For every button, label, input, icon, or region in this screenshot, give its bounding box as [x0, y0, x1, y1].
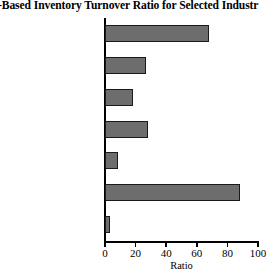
bar-row: Motion pictures	[105, 50, 258, 82]
bar-chart: es-Based Inventory Turnover Ratio for Se…	[0, 0, 273, 272]
bar	[105, 184, 240, 201]
bar-row: Eating & drinking	[105, 18, 258, 50]
x-axis-title: Ratio	[105, 260, 258, 272]
plot-area: Eating & drinkingMotion picturesFood sto…	[105, 18, 258, 241]
bar-row: Food stores	[105, 82, 258, 114]
bar-row: General merchandise	[105, 209, 258, 241]
x-axis-tick-label: 100	[238, 247, 273, 260]
bar-row: Educational services	[105, 177, 258, 209]
bar	[105, 152, 118, 169]
x-axis-line	[104, 241, 259, 243]
bar	[105, 216, 110, 233]
chart-title-text: es-Based Inventory Turnover Ratio for Se…	[0, 0, 258, 13]
bar-row: Printing & publishing	[105, 114, 258, 146]
bar	[105, 121, 148, 138]
bar	[105, 57, 146, 74]
bar	[105, 25, 209, 42]
bar-row: Electrical equipment	[105, 145, 258, 177]
chart-title: es-Based Inventory Turnover Ratio for Se…	[0, 0, 273, 13]
bar	[105, 89, 133, 106]
